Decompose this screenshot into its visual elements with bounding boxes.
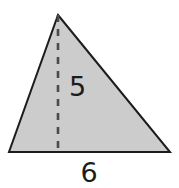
- height-label: 5: [69, 71, 86, 102]
- geometry-figure: 5 6: [0, 0, 179, 188]
- triangle-diagram-svg: 5 6: [0, 0, 179, 188]
- base-label: 6: [80, 157, 97, 188]
